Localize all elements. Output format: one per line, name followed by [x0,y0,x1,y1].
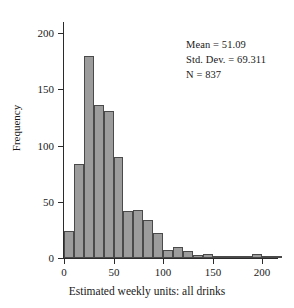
histogram-bar [173,247,183,258]
histogram-bar [94,105,104,258]
y-axis-tick-label: 0 [20,253,54,264]
x-axis-tick-label: 100 [143,267,183,278]
histogram-bar [64,231,74,258]
histogram-bar [74,164,84,258]
y-axis-tick-label: 100 [20,141,54,152]
histogram-bar [252,254,262,258]
histogram-bar [123,211,133,258]
annotation-stddev: Std. Dev. = 69.311 [186,53,266,68]
annotation-n: N = 837 [186,68,266,83]
histogram-bar [262,256,272,258]
x-axis-tick-mark [163,259,164,264]
histogram-figure: 050100150200 050100150200 Frequency Esti… [0,0,294,308]
histogram-bar [84,56,94,258]
histogram-bar [183,251,193,258]
annotation-mean: Mean = 51.09 [186,38,266,53]
statistics-annotation: Mean = 51.09 Std. Dev. = 69.311 N = 837 [186,38,266,83]
x-axis-tick-mark [213,259,214,264]
histogram-bar [242,256,252,258]
x-axis-tick-mark [114,259,115,264]
histogram-bar [153,233,163,258]
y-axis-tick-label: 50 [20,197,54,208]
x-axis-tick-mark [64,259,65,264]
histogram-bar [104,111,114,258]
y-axis-tick-label: 150 [20,84,54,95]
y-axis-tick-label: 200 [20,28,54,39]
histogram-bar [114,157,124,258]
histogram-bar [143,220,153,258]
histogram-bar [133,210,143,258]
x-axis-title: Estimated weekly units: all drinks [0,285,294,297]
x-axis-tick-label: 200 [242,267,282,278]
histogram-bar [193,255,203,258]
x-axis-line [63,258,278,259]
y-axis-title: Frequency [10,63,22,193]
x-axis-tick-mark [262,259,263,264]
histogram-bar [203,254,213,258]
histogram-bar [163,250,173,258]
histogram-bar [213,256,223,258]
histogram-bar [272,256,282,258]
histogram-bar [232,256,242,258]
x-axis-tick-label: 150 [193,267,233,278]
histogram-bar [223,256,233,258]
x-axis-tick-label: 0 [44,267,84,278]
x-axis-tick-label: 50 [94,267,134,278]
